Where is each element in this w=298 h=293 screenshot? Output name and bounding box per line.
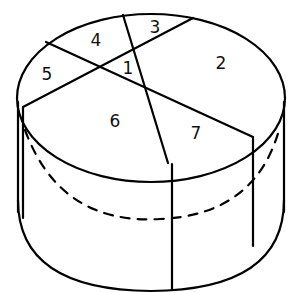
region-label-4: 4	[91, 32, 102, 49]
region-label-1: 1	[123, 60, 134, 77]
cut-line-b	[23, 18, 193, 107]
hidden-edge-dashed	[25, 130, 279, 219]
region-label-6: 6	[110, 113, 121, 130]
region-label-2: 2	[216, 55, 227, 72]
region-label-3: 3	[150, 19, 161, 36]
region-label-5: 5	[42, 66, 53, 83]
bottom-arc	[18, 200, 284, 291]
cylinder-drawing	[0, 0, 298, 293]
cut-line-a	[123, 15, 168, 163]
region-label-7: 7	[191, 125, 202, 142]
cylinder-diagram: 1 2 3 4 5 6 7	[0, 0, 298, 293]
